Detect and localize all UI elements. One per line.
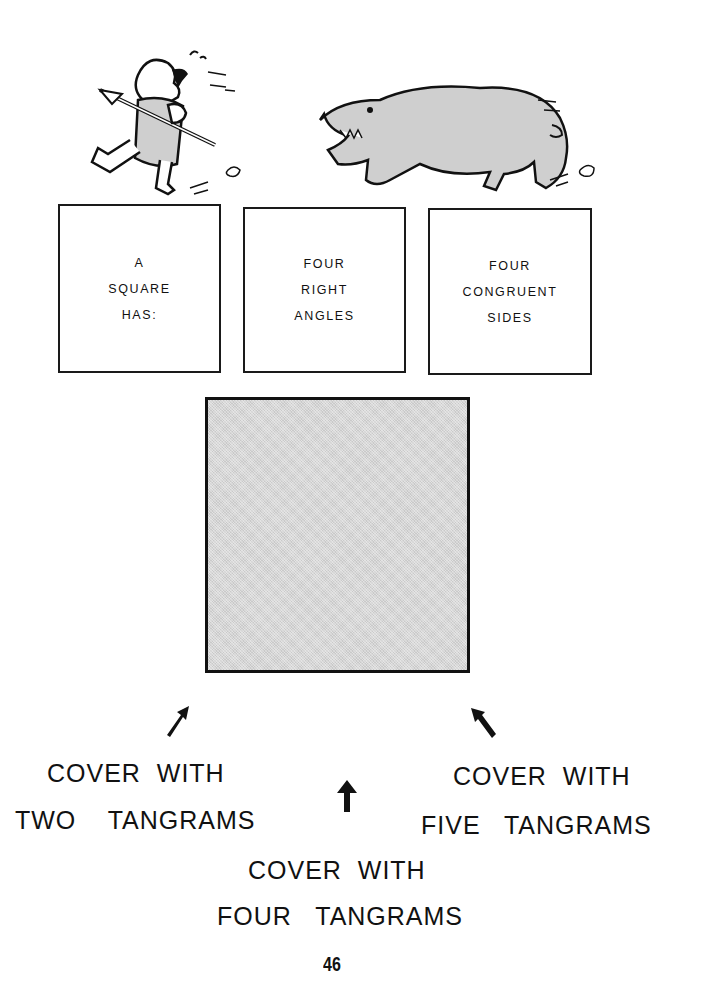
box-line: CONGRUENT (463, 279, 558, 305)
box-line: A (135, 250, 145, 276)
instruction-right-line1: COVER WITH (453, 762, 631, 791)
box-line: ANGLES (294, 303, 354, 329)
bear-illustration (300, 70, 610, 195)
arrow-up-left-icon (469, 706, 499, 742)
box-line: HAS: (122, 302, 158, 328)
definition-box-3: FOUR CONGRUENT SIDES (428, 208, 592, 375)
box-line: SQUARE (108, 276, 170, 302)
page-number: 46 (323, 953, 341, 976)
box-line: RIGHT (301, 277, 348, 303)
instruction-center-line2: FOUR TANGRAMS (217, 902, 463, 931)
instruction-right-line2: FIVE TANGRAMS (421, 811, 652, 840)
arrow-up-right-icon (163, 703, 193, 739)
arrow-up-icon (335, 779, 359, 813)
box-line: FOUR (304, 251, 346, 277)
square-shape (205, 397, 470, 673)
box-line: FOUR (489, 253, 531, 279)
definition-box-1: A SQUARE HAS: (58, 204, 221, 373)
caveman-illustration (60, 30, 250, 200)
instruction-left-line2: TWO TANGRAMS (15, 806, 255, 835)
instruction-left-line1: COVER WITH (47, 759, 225, 788)
instruction-center-line1: COVER WITH (248, 856, 426, 885)
box-line: SIDES (487, 305, 533, 331)
definition-box-2: FOUR RIGHT ANGLES (243, 207, 406, 373)
